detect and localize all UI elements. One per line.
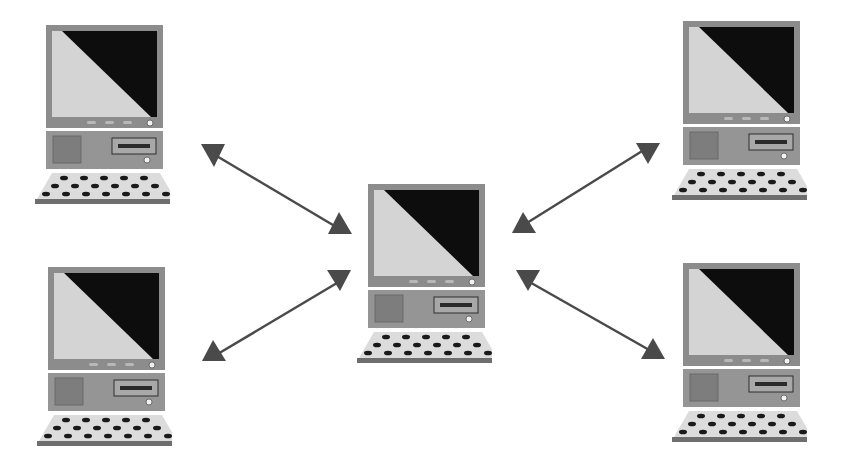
link-top-right bbox=[522, 148, 647, 226]
link-bottom-left bbox=[216, 280, 342, 355]
link-top-left bbox=[215, 155, 338, 228]
connection-arrows bbox=[0, 0, 859, 474]
arrowhead-down-icon bbox=[516, 270, 540, 291]
arrowhead-up-icon bbox=[512, 212, 536, 233]
arrowhead-down-icon bbox=[201, 144, 225, 167]
link-bottom-right bbox=[526, 280, 651, 351]
